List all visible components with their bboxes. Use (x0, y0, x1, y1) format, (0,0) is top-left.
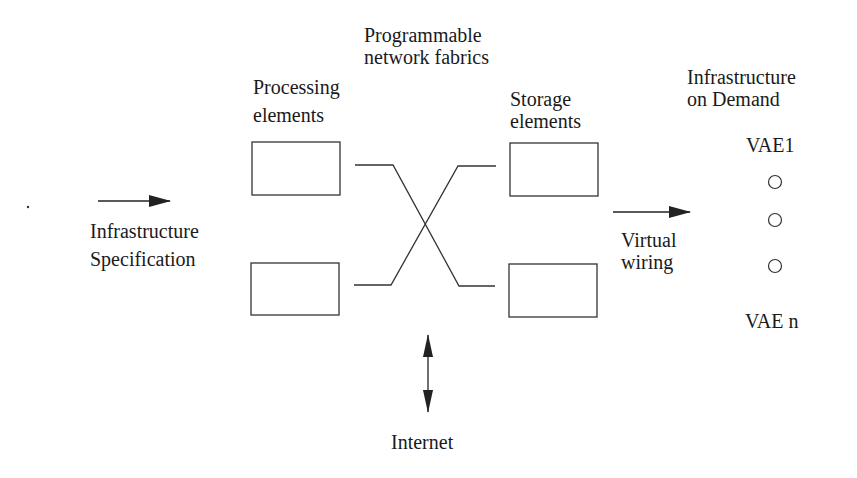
internet-label: Internet (391, 431, 453, 453)
virtual-wiring-label: Virtual wiring (621, 229, 676, 273)
fabric-label-line1: Programmable (364, 24, 489, 46)
stray-dot (27, 206, 29, 208)
processing-element-box-1 (252, 142, 340, 195)
specification-label-line1: Infrastructure (90, 220, 199, 248)
storage-label-line2: elements (510, 110, 581, 132)
processing-element-box-2 (251, 263, 339, 315)
processing-label-line1: Processing (253, 76, 340, 104)
fabric-label-line2: network fabrics (364, 46, 489, 68)
vae-circle-1 (769, 176, 782, 189)
processing-label-line2: elements (253, 104, 340, 126)
virtual-wiring-label-line1: Virtual (621, 229, 676, 251)
internet-arrow-down-head (423, 390, 433, 413)
storage-element-box-1 (510, 143, 598, 196)
fabric-label: Programmable network fabrics (364, 24, 489, 68)
infrastructure-on-demand-label: Infrastructure on Demand (687, 66, 796, 110)
fabric-wire-bottom-to-top (354, 166, 496, 285)
vae-circle-2 (769, 214, 782, 227)
internet-arrow-up-head (423, 334, 433, 357)
vae-circle-3 (769, 260, 782, 273)
vae-last-label: VAE n (745, 310, 799, 332)
specification-label: Infrastructure Specification (90, 220, 199, 270)
specification-label-line2: Specification (90, 248, 199, 270)
virtual-wiring-label-line2: wiring (621, 251, 676, 273)
storage-label-line1: Storage (510, 88, 581, 110)
vae-first-label: VAE1 (746, 134, 795, 156)
storage-label: Storage elements (510, 88, 581, 132)
storage-element-box-2 (509, 264, 597, 317)
processing-label: Processing elements (253, 76, 340, 126)
demand-label-line2: on Demand (687, 88, 796, 110)
demand-label-line1: Infrastructure (687, 66, 796, 88)
